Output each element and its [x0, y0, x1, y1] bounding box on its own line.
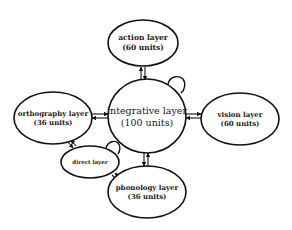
integrative-layer-units: (100 units)	[121, 117, 174, 128]
orthography-layer-units: (36 units)	[34, 118, 73, 127]
node-integrative-layer: integrative layer (100 units)	[107, 79, 187, 153]
node-direct-layer: direct layer	[61, 146, 119, 178]
phonology-layer-units: (36 units)	[128, 192, 167, 201]
orthography-layer-label: orthography layer	[18, 109, 89, 118]
node-orthography-layer: orthography layer (36 units)	[14, 92, 92, 144]
action-layer-units: (60 units)	[122, 43, 164, 52]
vision-layer-units: (60 units)	[221, 119, 260, 128]
phonology-layer-label: phonology layer	[116, 183, 179, 192]
network-diagram: action layer (60 units) integrative laye…	[0, 0, 292, 230]
node-action-layer: action layer (60 units)	[108, 20, 178, 66]
action-layer-label: action layer	[118, 33, 169, 42]
edge-integrative-vision	[186, 114, 201, 118]
vision-layer-label: vision layer	[217, 110, 263, 119]
node-phonology-layer: phonology layer (36 units)	[108, 166, 186, 218]
edge-integrative-phonology	[144, 153, 148, 166]
integrative-layer-label: integrative layer	[107, 105, 187, 116]
direct-layer-label: direct layer	[72, 159, 107, 166]
node-vision-layer: vision layer (60 units)	[201, 93, 279, 145]
edge-orthography-integrative	[92, 114, 108, 118]
edge-integrative-action	[141, 67, 145, 80]
